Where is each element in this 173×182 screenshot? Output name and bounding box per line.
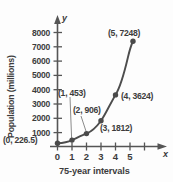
point-label-0: (0, 226.5) <box>3 136 37 145</box>
data-point-0 <box>55 141 60 146</box>
x-tick-label-2: 2 <box>84 152 89 162</box>
point-label-1: (1, 453) <box>58 89 86 98</box>
x-axis-title: 75-year intervals <box>59 167 130 176</box>
y-tick-label-7000: 7000 <box>12 43 50 52</box>
point-label-4: (4, 3624) <box>121 92 153 101</box>
y-axis-letter: y <box>62 14 67 23</box>
y-axis-arrow-icon <box>54 15 61 24</box>
x-tick-label-5: 5 <box>127 152 132 162</box>
data-point-2 <box>84 131 89 136</box>
y-tick-label-6000: 6000 <box>12 57 50 66</box>
y-tick-label-2000: 2000 <box>12 114 50 123</box>
x-tick-label-0: 0 <box>55 152 60 162</box>
data-point-5 <box>130 39 135 44</box>
y-tick-label-4000: 4000 <box>12 86 50 95</box>
point-label-3: (3, 1812) <box>100 124 132 133</box>
data-point-1 <box>69 137 74 142</box>
y-axis-title: Population (millions) <box>7 55 16 138</box>
y-tick-label-8000: 8000 <box>12 29 50 38</box>
point-label-2: (2, 906) <box>73 106 101 115</box>
x-axis-letter: x <box>163 150 168 159</box>
point-label-5: (5, 7248) <box>108 29 140 38</box>
y-tick-label-5000: 5000 <box>12 71 50 80</box>
leader-line-p1 <box>70 97 72 138</box>
x-tick-label-4: 4 <box>113 152 118 162</box>
leader-line-p2 <box>81 116 86 131</box>
data-point-4 <box>113 92 118 97</box>
exponential-population-chart: 8000 7000 6000 5000 4000 3000 2000 1000 … <box>0 0 173 182</box>
y-tick-label-3000: 3000 <box>12 100 50 109</box>
x-tick-label-1: 1 <box>69 152 74 162</box>
x-tick-label-3: 3 <box>98 152 103 162</box>
